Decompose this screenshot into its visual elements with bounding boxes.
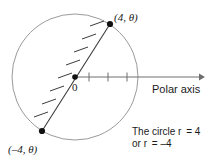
point-4-theta-label: (4, θ) <box>114 11 138 24</box>
polar-axis-label: Polar axis <box>152 83 200 96</box>
caption-block: The circle r = 4 or r = –4 <box>132 126 200 149</box>
caption-line-2: or r = –4 <box>132 138 200 150</box>
polar-circle-diagram: (4, θ) (–4, θ) 0 Polar axis The circle r… <box>0 0 217 164</box>
point-neg4-theta <box>39 128 45 134</box>
point-neg4-theta-label: (–4, θ) <box>8 143 37 156</box>
origin-label: 0 <box>72 81 78 94</box>
radial-line-ticks <box>34 21 104 117</box>
point-4-theta <box>107 21 113 27</box>
caption-line-1: The circle r = 4 <box>132 126 200 138</box>
radial-line <box>34 21 110 131</box>
pole-point <box>72 74 78 80</box>
polar-axis <box>75 73 205 82</box>
polar-axis-arrowhead <box>199 74 205 81</box>
